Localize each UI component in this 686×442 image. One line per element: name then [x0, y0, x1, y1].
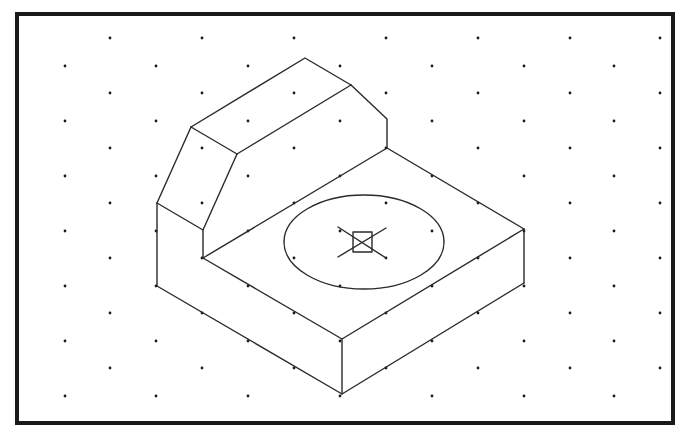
grid-dot: [64, 340, 67, 343]
grid-dot: [64, 65, 67, 68]
grid-dot: [109, 312, 112, 315]
grid-dot: [247, 395, 250, 398]
grid-dot: [339, 120, 342, 123]
grid-dot: [109, 202, 112, 205]
isometric-drawing-canvas: [0, 0, 686, 442]
grid-dot: [613, 65, 616, 68]
grid-dot: [523, 65, 526, 68]
grid-dot: [569, 147, 572, 150]
grid-dot: [155, 395, 158, 398]
grid-dot: [155, 65, 158, 68]
grid-dot: [613, 175, 616, 178]
grid-dot: [293, 37, 296, 40]
grid-dot: [569, 257, 572, 260]
grid-dot: [431, 230, 434, 233]
grid-dot: [201, 147, 204, 150]
grid-dot: [569, 92, 572, 95]
grid-dot: [293, 147, 296, 150]
grid-dot: [613, 120, 616, 123]
grid-dot: [431, 395, 434, 398]
grid-dot: [523, 285, 526, 288]
grid-dot: [155, 120, 158, 123]
grid-dot: [613, 395, 616, 398]
grid-dot: [339, 230, 342, 233]
grid-dot: [659, 202, 662, 205]
grid-dot: [659, 147, 662, 150]
grid-dot: [613, 340, 616, 343]
grid-dot: [659, 312, 662, 315]
grid-dot: [64, 395, 67, 398]
grid-dot: [293, 92, 296, 95]
grid-dot: [109, 37, 112, 40]
grid-dot: [659, 92, 662, 95]
grid-dot: [109, 257, 112, 260]
grid-dot: [659, 37, 662, 40]
grid-dot: [64, 120, 67, 123]
grid-dot: [339, 340, 342, 343]
grid-dot: [201, 92, 204, 95]
grid-dot: [659, 367, 662, 370]
grid-dot: [569, 367, 572, 370]
grid-dot: [569, 202, 572, 205]
grid-dot: [613, 230, 616, 233]
grid-dot: [64, 230, 67, 233]
grid-dot: [247, 65, 250, 68]
grid-dot: [64, 175, 67, 178]
grid-dot: [155, 175, 158, 178]
grid-dot: [613, 285, 616, 288]
grid-dot: [64, 285, 67, 288]
grid-dot: [477, 92, 480, 95]
grid-dot: [523, 120, 526, 123]
grid-dot: [247, 175, 250, 178]
grid-dot: [339, 65, 342, 68]
grid-dot: [339, 395, 342, 398]
grid-dot: [385, 37, 388, 40]
grid-dot: [293, 257, 296, 260]
grid-dot: [109, 92, 112, 95]
grid-dot: [247, 120, 250, 123]
grid-dot: [431, 65, 434, 68]
grid-dot: [109, 367, 112, 370]
grid-dot: [109, 147, 112, 150]
grid-dot: [201, 367, 204, 370]
grid-dot: [523, 175, 526, 178]
grid-dot: [477, 147, 480, 150]
grid-dot: [201, 202, 204, 205]
grid-dot: [385, 92, 388, 95]
grid-dot: [523, 340, 526, 343]
grid-dot: [569, 37, 572, 40]
drawing-frame: [17, 14, 673, 423]
grid-dot: [201, 37, 204, 40]
grid-dot: [569, 312, 572, 315]
grid-dot: [385, 202, 388, 205]
grid-dot: [477, 37, 480, 40]
grid-dot: [523, 395, 526, 398]
grid-dot: [659, 257, 662, 260]
grid-dot: [155, 340, 158, 343]
grid-dot: [431, 120, 434, 123]
grid-dot: [477, 367, 480, 370]
